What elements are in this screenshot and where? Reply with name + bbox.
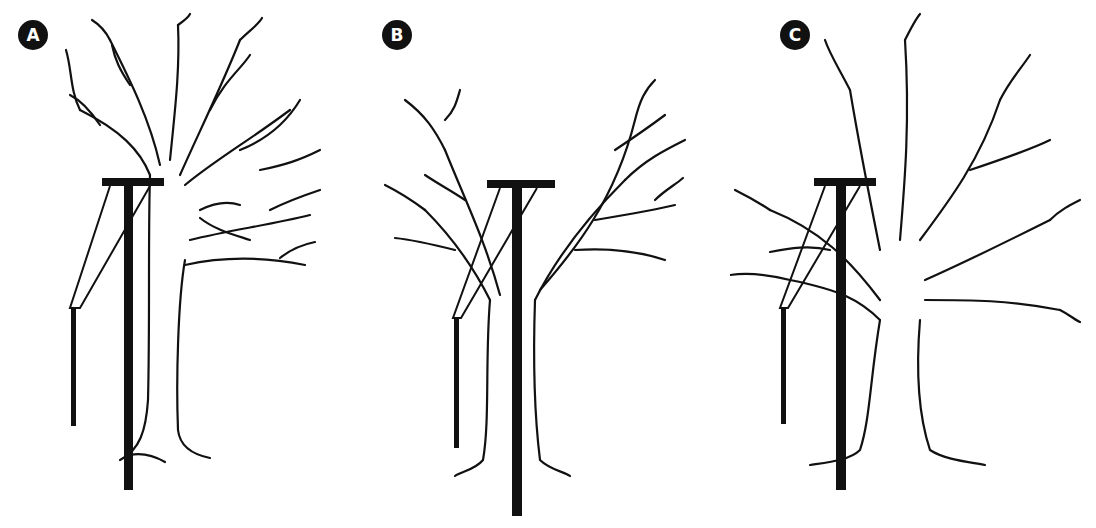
- tree-with-pole-illustration-a: [0, 0, 365, 528]
- panel-b: B: [365, 0, 730, 528]
- tree-with-pole-illustration-b: [365, 0, 730, 528]
- panel-c: C: [730, 0, 1096, 528]
- panel-a: A: [0, 0, 365, 528]
- tree-with-pole-illustration-c: [730, 0, 1096, 528]
